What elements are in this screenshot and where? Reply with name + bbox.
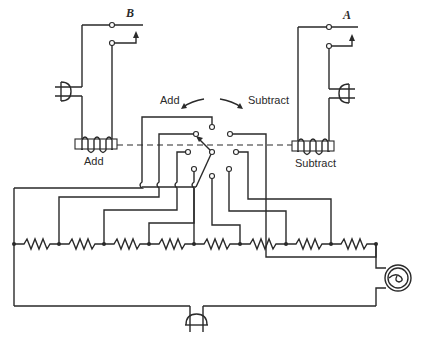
add-direction-arrow: [183, 99, 204, 107]
switch-contact: [194, 132, 199, 137]
resistor: [104, 239, 149, 249]
direction-subtract-label: Subtract: [248, 94, 289, 106]
plug-icon: [185, 306, 208, 332]
relay-a-contact-lower: [327, 44, 332, 49]
relay-b-contact-upper: [110, 23, 115, 28]
subtract-coil: [292, 139, 334, 155]
arrow-icon: [181, 103, 187, 109]
switch-wiper: [196, 152, 212, 187]
resistor: [194, 239, 240, 249]
resistor: [149, 239, 194, 249]
switch-contact: [234, 150, 239, 155]
plug-icon: [329, 84, 355, 103]
relay-a-label: A: [342, 8, 351, 22]
circuit-diagram: B Add A: [0, 0, 426, 338]
arrow-icon: [237, 103, 243, 109]
add-coil-label: Add: [84, 155, 104, 167]
subtract-direction-arrow: [220, 99, 241, 107]
switch-contact: [227, 167, 232, 172]
relay-b-contact-lower: [110, 41, 115, 46]
rotary-switch: [14, 117, 376, 257]
switch-contact: [228, 132, 233, 137]
indicator-lamp-icon: [385, 265, 411, 291]
add-coil: [75, 137, 117, 153]
relay-b-arrow-icon: [133, 31, 139, 38]
resistor: [331, 239, 376, 249]
relay-a-arrow-icon: [349, 34, 355, 41]
relay-a: A Subtract: [292, 8, 358, 169]
relay-b: B Add: [55, 6, 143, 167]
direction-add-label: Add: [160, 94, 180, 106]
plug-icon: [55, 82, 82, 101]
subtract-coil-label: Subtract: [295, 157, 336, 169]
resistor: [14, 239, 59, 249]
switch-contact: [210, 174, 215, 179]
switch-contact: [192, 167, 197, 172]
resistor: [286, 239, 331, 249]
switch-contact: [186, 150, 191, 155]
relay-a-contact-upper: [327, 25, 332, 30]
resistor: [59, 239, 104, 249]
resistor-ladder: [12, 188, 378, 306]
switch-pivot: [210, 150, 215, 155]
switch-contact: [210, 125, 215, 130]
resistor: [240, 239, 286, 249]
relay-b-label: B: [125, 6, 134, 20]
